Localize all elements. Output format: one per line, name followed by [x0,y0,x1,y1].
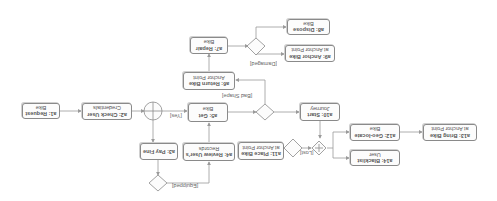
activity-a12: a12: Geo-locate Bike [350,124,400,141]
equipped-decision-icon [149,175,167,191]
activity-a2: a2: Check User Credentials [82,103,132,120]
activity-a12-text: Bike [370,126,381,133]
activity-a10-text: Journey [310,106,330,113]
activity-a13-text: at Anchor Point [431,126,468,133]
activity-a6-text: Anchor Point [193,75,225,82]
guard-equipped: [Equipped] [172,183,198,189]
activity-a2-text: Credentials [93,105,121,112]
guard-lost: [Lost] [300,150,313,156]
activity-a5-id: a5: Get [199,113,218,120]
activity-a1-id: a1: Request [25,111,56,118]
damage-decision-icon [256,104,274,120]
activity-diagram: a1: Request Bike a2: Check User Credenti… [0,0,497,201]
activity-a1: a1: Request Bike [22,103,60,119]
activity-a8: a8: Dispose Bike [287,19,330,35]
activity-a7-id: a7: Repair [196,46,223,53]
activity-a14: a14: Blacklist User [350,150,400,166]
activity-a12-id: a12: Geo-locate [355,133,396,140]
activity-a3-id: a3: Pay Fine [143,148,175,155]
activity-a14-id: a14: Blacklist [357,158,392,165]
activity-a13-id: a13: Bring Bike [430,133,470,140]
activity-a5-text: Bike [203,106,214,113]
activity-a4-text: Records [199,146,219,153]
activity-a4: a4: Review User's Records [183,143,235,161]
activity-a7: a7: Repair Bike [190,37,228,54]
activity-a1-text: Bike [36,105,47,112]
activity-a10: a10: Start Journey [300,103,340,121]
activity-a8-id: a8: Dispose [293,27,324,34]
activity-a6: a6: Return Bike Anchor Point [183,72,235,90]
activity-a14-text: User [369,152,381,159]
activity-a2-id: a2: Check User [87,112,127,119]
activity-a9-id: a9: Anchor Bike [289,54,331,61]
activity-a5: a5: Get Bike [188,103,228,122]
activity-a10-id: a10: Start [307,112,332,119]
activity-a4-id: a4: Review User's [186,152,233,159]
guard-damaged: [Damaged] [250,61,277,67]
activity-a11-id: a11: Place Bike [241,151,281,158]
activity-a13: a13: Bring Bike at Anchor Point [423,124,477,141]
activity-a9-text: at Anchor Point [291,47,328,54]
activity-a8-text: Bike [303,21,314,28]
repair-decision-icon [247,38,265,55]
guard-bad-shape: [Bad Shape] [222,93,252,99]
activity-a9: a9: Anchor Bike at Anchor Point [285,45,335,62]
guard-yes: [Yes] [170,113,182,119]
activity-a3: a3: Pay Fine [140,143,178,160]
activity-a11-text: at Anchor Point [242,145,279,152]
activity-a11: a11: Place Bike at Anchor Point [238,142,284,160]
activity-a7-text: Bike [204,39,215,46]
activity-a6-id: a6: Return Bike [189,81,229,88]
connectors [0,0,497,201]
